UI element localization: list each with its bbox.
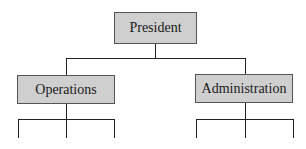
connector-line [196, 119, 197, 138]
node-label: Administration [202, 81, 287, 97]
node-label: President [129, 20, 181, 36]
connector-line [155, 44, 156, 59]
connector-line [66, 58, 246, 59]
connector-line [66, 119, 67, 138]
connector-line [114, 119, 115, 138]
connector-line [66, 104, 67, 119]
connector-line [293, 119, 294, 138]
connector-line [18, 119, 19, 138]
node-label: Operations [35, 82, 96, 98]
node-president: President [114, 12, 197, 44]
node-operations: Operations [17, 75, 115, 104]
connector-line [245, 119, 246, 138]
connector-line [66, 58, 67, 75]
node-administration: Administration [195, 74, 293, 103]
connector-line [245, 58, 246, 74]
connector-line [245, 103, 246, 119]
